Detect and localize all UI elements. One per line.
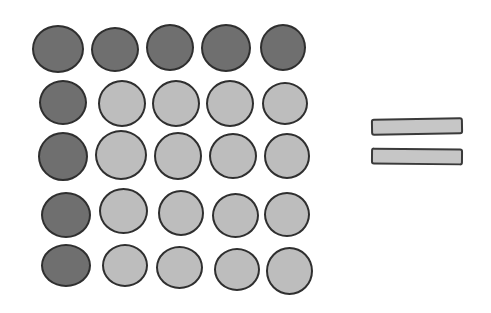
light-circle-icon	[264, 192, 310, 237]
light-circle-icon	[266, 247, 313, 295]
dark-circle-icon	[146, 24, 194, 71]
light-circle-icon	[102, 244, 148, 287]
light-circle-icon	[214, 248, 260, 291]
light-circle-icon	[99, 188, 148, 234]
dark-circle-icon	[38, 132, 88, 181]
equals-bar-bottom	[371, 148, 463, 166]
light-circle-icon	[264, 133, 310, 179]
diagram-canvas	[0, 0, 491, 313]
dark-circle-icon	[41, 192, 91, 238]
light-circle-icon	[154, 132, 202, 180]
light-circle-icon	[206, 80, 254, 127]
light-circle-icon	[98, 80, 146, 127]
light-circle-icon	[158, 190, 204, 236]
equals-bar-top	[371, 117, 463, 136]
dark-circle-icon	[91, 27, 139, 72]
dark-circle-icon	[201, 24, 251, 72]
dark-circle-icon	[41, 244, 91, 287]
light-circle-icon	[209, 133, 257, 179]
light-circle-icon	[156, 246, 203, 289]
light-circle-icon	[262, 82, 308, 125]
dark-circle-icon	[260, 24, 306, 71]
dark-circle-icon	[32, 25, 84, 73]
light-circle-icon	[152, 80, 200, 127]
dark-circle-icon	[39, 80, 87, 125]
light-circle-icon	[95, 130, 147, 180]
light-circle-icon	[212, 193, 259, 238]
